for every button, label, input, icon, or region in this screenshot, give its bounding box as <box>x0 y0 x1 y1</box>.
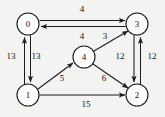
graph-figure: 4 4 13 13 12 12 5 <box>0 0 165 117</box>
edge-4-to-3: 3 <box>94 31 128 51</box>
edge-4-to-2: 6 <box>93 64 128 88</box>
edge-2-to-3: 12 <box>141 38 157 85</box>
graph-canvas: 4 4 13 13 12 12 5 <box>0 0 165 117</box>
node-0[interactable]: 0 <box>17 13 39 35</box>
edge-label-0-3: 4 <box>80 4 85 14</box>
edge-label-4-2: 6 <box>102 73 107 83</box>
edge-3-to-2: 12 <box>116 36 135 83</box>
edge-label-1-2: 15 <box>82 99 92 109</box>
node-1[interactable]: 1 <box>17 84 39 106</box>
edge-1-to-4: 5 <box>38 63 73 89</box>
edge-1-to-2: 15 <box>40 95 126 109</box>
node-4-label: 4 <box>82 52 87 62</box>
edge-0-to-3: 4 <box>40 4 126 20</box>
edge-1-to-0: 13 <box>7 38 25 85</box>
node-3[interactable]: 3 <box>126 13 148 35</box>
edge-label-3-0: 4 <box>80 31 85 41</box>
edge-label-2-3: 12 <box>148 51 157 61</box>
edge-label-0-1: 13 <box>32 51 42 61</box>
edge-0-to-1: 13 <box>31 36 42 83</box>
node-1-label: 1 <box>26 90 31 100</box>
edge-label-3-2: 12 <box>116 51 125 61</box>
node-2[interactable]: 2 <box>126 84 148 106</box>
edge-label-1-0: 13 <box>7 51 17 61</box>
node-2-label: 2 <box>135 90 140 100</box>
node-3-label: 3 <box>135 19 140 29</box>
edge-label-4-3: 3 <box>103 31 108 41</box>
edge-3-to-0: 4 <box>41 27 126 42</box>
edge-label-1-4: 5 <box>60 73 65 83</box>
node-0-label: 0 <box>26 19 31 29</box>
node-4[interactable]: 4 <box>73 46 95 68</box>
